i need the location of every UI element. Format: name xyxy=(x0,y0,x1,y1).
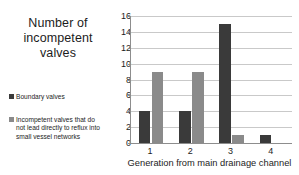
gridline xyxy=(131,64,292,65)
x-axis-tick-label: 2 xyxy=(178,146,202,156)
chart-screenshot: Number of incompetent valves Boundary va… xyxy=(0,0,299,175)
y-axis-tick-mark xyxy=(128,111,131,112)
y-axis-tick-mark xyxy=(128,127,131,128)
y-axis-tick-mark xyxy=(128,143,131,144)
gridline xyxy=(131,16,292,17)
chart-title-line-2: incompetent xyxy=(2,31,114,46)
x-axis-tick-label: 4 xyxy=(259,146,283,156)
bar-series-2-category-3 xyxy=(232,135,244,143)
chart-title-line-3: valves xyxy=(2,46,114,61)
x-axis-tick-label: 3 xyxy=(219,146,243,156)
plot-area xyxy=(130,16,292,143)
legend-label-incompetent-line-1: Incompetent valves that do xyxy=(16,116,95,123)
y-axis-tick-mark xyxy=(128,64,131,65)
bar-series-1-category-1 xyxy=(139,111,151,143)
square-marker-icon xyxy=(9,117,14,122)
bar-series-2-category-2 xyxy=(192,72,204,143)
bar-series-2-category-1 xyxy=(152,72,164,143)
bar-series-1-category-3 xyxy=(219,24,231,143)
bar-series-1-category-4 xyxy=(260,135,272,143)
gridline xyxy=(131,48,292,49)
x-axis-baseline xyxy=(131,143,292,144)
x-axis-title: Generation from main drainage channel xyxy=(120,158,299,168)
legend-label-boundary-valves: Boundary valves xyxy=(16,93,65,100)
y-axis-tick-mark xyxy=(128,32,131,33)
chart-title: Number of incompetent valves xyxy=(2,16,114,61)
x-axis-tick-label: 1 xyxy=(138,146,162,156)
chart-plot-region: 0246810121416 1234 Generation from main … xyxy=(100,0,299,175)
square-marker-icon xyxy=(9,94,14,99)
y-axis-tick-mark xyxy=(128,48,131,49)
chart-title-line-1: Number of xyxy=(2,16,114,31)
y-axis-tick-mark xyxy=(128,16,131,17)
y-axis-tick-mark xyxy=(128,95,131,96)
gridline xyxy=(131,32,292,33)
bar-series-1-category-2 xyxy=(179,111,191,143)
y-axis-tick-mark xyxy=(128,80,131,81)
